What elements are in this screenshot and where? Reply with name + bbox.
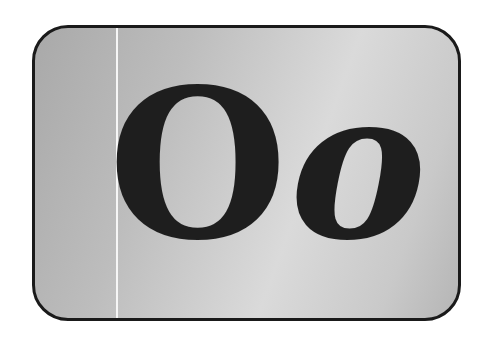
letter-card: Oo	[32, 25, 461, 321]
letter-pair: Oo	[108, 62, 427, 268]
lowercase-letter: o	[289, 62, 426, 268]
uppercase-letter: O	[108, 62, 283, 268]
